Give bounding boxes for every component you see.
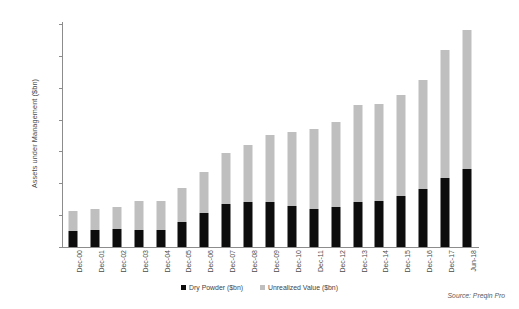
x-axis-line xyxy=(62,247,479,248)
y-axis-title: Assets under Management ($bn) xyxy=(30,24,39,244)
bar-segment-unrealized-value xyxy=(68,211,77,231)
bar-column xyxy=(244,145,253,247)
bar-column xyxy=(397,95,406,247)
x-tick-label: Dec-02 xyxy=(120,250,127,273)
bar-column xyxy=(287,132,296,247)
bar-segment-unrealized-value xyxy=(244,145,253,202)
bar-segment-unrealized-value xyxy=(331,122,340,207)
bar-segment-dry-powder xyxy=(178,222,187,247)
bar-column xyxy=(441,50,450,247)
bar-segment-dry-powder xyxy=(222,204,231,247)
x-tick-label: Dec-08 xyxy=(251,250,258,273)
bar-segment-dry-powder xyxy=(463,169,472,247)
bar-segment-dry-powder xyxy=(244,202,253,247)
y-tick-mark xyxy=(59,88,62,89)
bar-segment-unrealized-value xyxy=(463,30,472,168)
bar-segment-unrealized-value xyxy=(287,132,296,206)
bar-column xyxy=(134,201,143,247)
bar-segment-dry-powder xyxy=(266,202,275,247)
bar-segment-dry-powder xyxy=(112,229,121,247)
bar-column xyxy=(222,153,231,247)
bar-column xyxy=(375,104,384,247)
bar-segment-dry-powder xyxy=(331,207,340,247)
bar-segment-dry-powder xyxy=(353,202,362,247)
plot-area: 05001,0001,5002,0002,5003,0003,500 xyxy=(62,24,478,247)
x-tick-label: Dec-05 xyxy=(185,250,192,273)
legend-label: Dry Powder ($bn) xyxy=(189,284,243,291)
legend-entry: Dry Powder ($bn) xyxy=(181,284,243,291)
bar-segment-unrealized-value xyxy=(419,80,428,189)
x-tick-label: Dec-03 xyxy=(142,250,149,273)
bar-column xyxy=(112,207,121,247)
x-tick-label: Dec-17 xyxy=(448,250,455,273)
bar-column xyxy=(463,30,472,247)
chart-legend: Dry Powder ($bn)Unrealized Value ($bn) xyxy=(0,284,519,291)
bar-segment-dry-powder xyxy=(419,189,428,247)
bar-column xyxy=(266,135,275,247)
x-tick-label: Dec-10 xyxy=(295,250,302,273)
bar-column xyxy=(156,201,165,248)
bar-segment-unrealized-value xyxy=(222,153,231,204)
bar-segment-dry-powder xyxy=(200,213,209,247)
source-note: Source: Preqin Pro xyxy=(448,292,505,299)
x-tick-label: Dec-00 xyxy=(76,250,83,273)
y-tick-mark xyxy=(59,151,62,152)
bar-column xyxy=(331,122,340,247)
bar-segment-dry-powder xyxy=(156,230,165,247)
x-tick-label: Dec-12 xyxy=(339,250,346,273)
bar-segment-unrealized-value xyxy=(309,129,318,209)
bar-segment-dry-powder xyxy=(134,230,143,247)
bar-segment-unrealized-value xyxy=(112,207,121,229)
bar-segment-unrealized-value xyxy=(397,95,406,196)
y-tick-mark xyxy=(59,215,62,216)
x-tick-label: Dec-09 xyxy=(273,250,280,273)
bar-column xyxy=(200,172,209,247)
bar-segment-dry-powder xyxy=(441,178,450,247)
y-tick-mark xyxy=(59,120,62,121)
x-tick-label: Dec-06 xyxy=(207,250,214,273)
bar-segment-dry-powder xyxy=(287,206,296,247)
legend-swatch-icon xyxy=(260,285,265,290)
bar-segment-dry-powder xyxy=(68,231,77,247)
y-tick-mark xyxy=(59,24,62,25)
bar-column xyxy=(68,211,77,247)
bar-segment-unrealized-value xyxy=(134,201,143,230)
bar-column xyxy=(178,188,187,247)
x-tick-label: Dec-15 xyxy=(404,250,411,273)
bar-segment-dry-powder xyxy=(90,230,99,247)
y-tick-mark xyxy=(59,247,62,248)
bar-segment-dry-powder xyxy=(309,209,318,247)
x-tick-label: Dec-13 xyxy=(361,250,368,273)
y-tick-mark xyxy=(59,183,62,184)
legend-entry: Unrealized Value ($bn) xyxy=(260,284,338,291)
bar-segment-dry-powder xyxy=(397,196,406,247)
bar-column xyxy=(353,105,362,247)
bar-segment-unrealized-value xyxy=(90,209,99,230)
x-tick-label: Dec-07 xyxy=(229,250,236,273)
bar-segment-unrealized-value xyxy=(156,201,165,231)
x-tick-label: Jun-18 xyxy=(470,250,477,271)
legend-label: Unrealized Value ($bn) xyxy=(268,284,338,291)
assets-under-management-chart: Assets under Management ($bn) 05001,0001… xyxy=(0,0,519,309)
x-tick-label: Dec-14 xyxy=(382,250,389,273)
bar-column xyxy=(309,129,318,247)
bar-segment-unrealized-value xyxy=(441,50,450,179)
x-tick-label: Dec-16 xyxy=(426,250,433,273)
x-tick-label: Dec-04 xyxy=(164,250,171,273)
x-tick-label: Dec-11 xyxy=(317,250,324,272)
bar-segment-dry-powder xyxy=(375,201,384,247)
y-tick-mark xyxy=(59,56,62,57)
bar-segment-unrealized-value xyxy=(178,188,187,222)
bar-column xyxy=(90,209,99,247)
x-tick-label: Dec-01 xyxy=(98,250,105,273)
bar-segment-unrealized-value xyxy=(353,105,362,202)
bar-column xyxy=(419,80,428,247)
bar-segment-unrealized-value xyxy=(266,135,275,203)
legend-swatch-icon xyxy=(181,285,186,290)
bar-segment-unrealized-value xyxy=(200,172,209,213)
bar-segment-unrealized-value xyxy=(375,104,384,201)
